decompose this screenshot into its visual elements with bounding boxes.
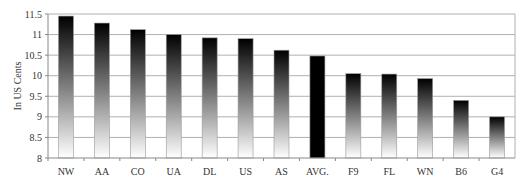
bar-nw [58,16,73,158]
bar-f9 [346,74,361,158]
x-tick-label: UA [167,166,182,177]
bar-g4 [490,117,505,158]
y-tick-label: 9 [37,111,42,122]
x-tick-label: AVG. [306,166,329,177]
bar-us [238,39,253,158]
y-axis-label: In US Cents [2,14,32,158]
x-tick-label: B6 [455,166,467,177]
x-tick-label: NW [58,166,75,177]
x-tick-label: DL [203,166,216,177]
x-tick-label: FL [383,166,395,177]
bar-chart: In US Cents 88.599.51010.51111.5 NWAACOU… [0,0,531,192]
bar-aa [94,23,109,158]
bar-wn [418,79,433,158]
bar-avg [310,56,325,158]
y-tick-label: 10 [32,70,42,81]
y-tick-label: 11 [32,29,42,40]
y-axis-label-text: In US Cents [12,62,23,111]
x-tick-labels: NWAACOUADLUSASAVG.F9FLWNB6G4 [58,166,504,177]
x-tick-label: WN [417,166,434,177]
x-tick-label: CO [131,166,145,177]
bar-b6 [454,100,469,158]
x-tick-label: US [239,166,252,177]
bar-fl [382,74,397,158]
bar-co [130,30,145,158]
x-tick-label: AA [95,166,110,177]
bar-dl [202,38,217,158]
chart-canvas: 88.599.51010.51111.5 NWAACOUADLUSASAVG.F… [0,0,531,192]
bar-ua [166,35,181,158]
x-tick-label: AS [275,166,288,177]
bar-as [274,50,289,158]
x-tick-label: F9 [348,166,359,177]
y-tick-label: 8 [37,153,42,164]
bars [58,16,504,158]
x-tick-label: G4 [491,166,503,177]
